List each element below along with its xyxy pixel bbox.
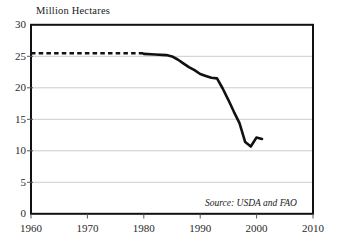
x-tick-label-1990: 1990	[178, 222, 222, 234]
x-tick-label-2000: 2000	[235, 222, 279, 234]
y-tick-label-15: 15	[2, 113, 26, 125]
chart-figure: Million Hectares	[0, 0, 347, 251]
x-tick-label-1960: 1960	[9, 222, 53, 234]
y-tick-label-10: 10	[2, 144, 26, 156]
x-tick-label-2010: 2010	[291, 222, 335, 234]
y-tick-label-20: 20	[2, 81, 26, 93]
gridlines	[31, 56, 313, 182]
y-tick-label-30: 30	[2, 18, 26, 30]
x-tick-label-1970: 1970	[65, 222, 109, 234]
chart-source-note: Source: USDA and FAO	[205, 198, 297, 208]
y-tick-label-5: 5	[2, 176, 26, 188]
y-tick-label-0: 0	[2, 207, 26, 219]
series-solid-line	[144, 54, 262, 147]
chart-plot-area	[0, 0, 347, 251]
y-tick-label-25: 25	[2, 50, 26, 62]
x-tick-label-1980: 1980	[122, 222, 166, 234]
